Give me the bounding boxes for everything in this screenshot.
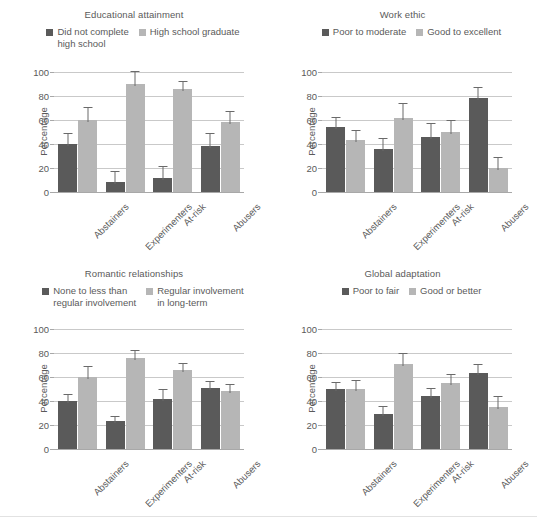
bar-group — [417, 72, 465, 192]
bar[interactable] — [469, 98, 488, 192]
x-axis-label: Abstainers — [359, 458, 399, 498]
x-axis-labels: AbstainersExperimentersAt-riskAbusers — [54, 449, 244, 450]
legend-item: None to less than regular involvement — [42, 285, 136, 308]
bar[interactable] — [326, 127, 345, 192]
error-bar-cap — [426, 123, 435, 124]
bar-group — [54, 329, 102, 449]
error-bar — [115, 417, 116, 424]
legend-swatch-icon — [46, 29, 53, 36]
bar[interactable] — [126, 84, 145, 192]
error-bar-cap — [331, 117, 340, 118]
bar-rect — [201, 146, 220, 192]
bar[interactable] — [201, 146, 220, 192]
error-bar-cap — [63, 133, 72, 134]
error-bar — [182, 82, 183, 91]
bar-groups — [322, 329, 512, 449]
error-bar-cap — [399, 103, 408, 104]
bar-group — [417, 329, 465, 449]
error-bar — [498, 158, 499, 170]
bar[interactable] — [58, 144, 77, 192]
bar-rect — [221, 391, 240, 449]
bar-group — [465, 72, 513, 192]
bar[interactable] — [441, 383, 460, 449]
bar[interactable] — [374, 414, 393, 449]
x-axis-label-cell: At-risk — [149, 192, 197, 193]
y-tick-label: 0 — [44, 444, 54, 455]
bar-group — [370, 72, 418, 192]
panel-title: Global adaptation — [268, 259, 537, 280]
x-axis-label-cell: Abusers — [465, 449, 513, 450]
error-bar-cap — [158, 166, 167, 167]
bar[interactable] — [394, 118, 413, 192]
bar[interactable] — [106, 421, 125, 449]
bar[interactable] — [441, 132, 460, 192]
bar-rect — [374, 149, 393, 192]
error-bar-cap — [178, 363, 187, 364]
legend: Poor to fairGood or better — [268, 285, 537, 297]
bar[interactable] — [173, 89, 192, 192]
error-bar — [67, 134, 68, 146]
x-axis-label: Abusers — [498, 201, 530, 233]
y-tick-label: 40 — [306, 396, 322, 407]
plot-area: Percentage020406080100AbstainersExperime… — [322, 329, 512, 449]
error-bar-cap — [446, 120, 455, 121]
bar[interactable] — [78, 377, 97, 449]
bar-groups — [54, 329, 244, 449]
x-axis-label-cell: Abstainers — [322, 449, 370, 450]
legend-label: High school graduate — [150, 26, 240, 38]
panel-educational-attainment: Educational attainmentDid not complete h… — [0, 0, 268, 259]
bar[interactable] — [489, 168, 508, 192]
bar[interactable] — [346, 389, 365, 449]
bar[interactable] — [421, 137, 440, 192]
legend: Poor to moderateGood to excellent — [268, 26, 537, 38]
bar-rect — [153, 178, 172, 192]
bar-group — [197, 329, 245, 449]
bar[interactable] — [421, 396, 440, 449]
bar[interactable] — [106, 182, 125, 192]
y-tick-label: 20 — [38, 420, 54, 431]
error-bar-cap — [158, 389, 167, 390]
x-axis-label-cell: Abstainers — [322, 192, 370, 193]
bar[interactable] — [173, 370, 192, 449]
error-bar-cap — [379, 138, 388, 139]
legend-label: None to less than regular involvement — [53, 285, 136, 308]
bar[interactable] — [126, 358, 145, 449]
bar-rect — [489, 407, 508, 449]
x-axis-label-cell: Experimenters — [102, 449, 150, 450]
legend-label: Poor to fair — [353, 285, 399, 297]
x-axis-label-cell: At-risk — [149, 449, 197, 450]
error-bar-cap — [399, 353, 408, 354]
bar[interactable] — [201, 388, 220, 449]
error-bar — [162, 167, 163, 180]
bar-group — [322, 329, 370, 449]
bar[interactable] — [326, 389, 345, 449]
error-bar-cap — [178, 81, 187, 82]
bar[interactable] — [489, 407, 508, 449]
bar-rect — [346, 140, 365, 192]
bar[interactable] — [374, 149, 393, 192]
error-bar-cap — [446, 374, 455, 375]
bar-rect — [326, 389, 345, 449]
error-bar-cap — [494, 396, 503, 397]
bar[interactable] — [153, 178, 172, 192]
bar[interactable] — [346, 140, 365, 192]
bar-rect — [394, 364, 413, 449]
bar[interactable] — [78, 120, 97, 192]
error-bar — [335, 118, 336, 130]
bar-rect — [441, 132, 460, 192]
plot-area: Percentage020406080100AbstainersExperime… — [322, 72, 512, 192]
bar[interactable] — [221, 391, 240, 449]
bar[interactable] — [153, 399, 172, 449]
x-axis-label-cell: At-risk — [417, 449, 465, 450]
bar-rect — [126, 84, 145, 192]
bar[interactable] — [394, 364, 413, 449]
bar[interactable] — [58, 401, 77, 449]
y-axis-label: Percentage — [38, 97, 49, 167]
bar[interactable] — [469, 373, 488, 449]
y-tick-label: 0 — [44, 187, 54, 198]
error-bar — [230, 112, 231, 125]
legend-item: Did not complete high school — [46, 26, 128, 49]
bar[interactable] — [221, 122, 240, 192]
y-tick-label: 60 — [306, 115, 322, 126]
error-bar — [230, 385, 231, 393]
